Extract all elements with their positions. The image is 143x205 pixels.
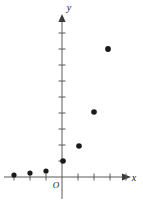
y-axis-label: y [66,2,72,13]
coordinate-plane-svg: x y O [0,0,143,205]
data-point [60,158,66,164]
data-point [11,172,16,177]
data-point [105,46,111,52]
data-point [27,170,32,175]
data-point [43,168,48,173]
y-axis-arrowhead [58,14,65,22]
scatter-plot-figure: x y O [0,0,143,205]
data-point [76,143,82,149]
data-point-group [11,46,111,178]
x-axis-label: x [131,172,137,183]
data-point [91,109,97,115]
origin-label: O [53,180,60,190]
